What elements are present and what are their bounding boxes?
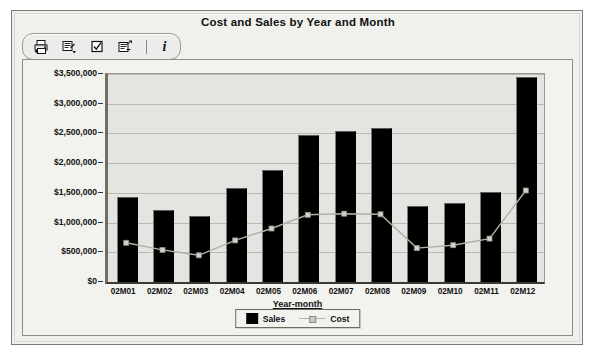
- x-axis-tick-label: 02M08: [365, 287, 390, 296]
- cost-line-series: Cost 02M01: $660,000Cost 02M02: $540,000…: [108, 74, 544, 282]
- cost-marker-02M07[interactable]: Cost 02M07: $1,150,000: [342, 211, 347, 216]
- y-axis-tick-mark: [98, 73, 103, 74]
- cost-marker-02M03[interactable]: Cost 02M03: $450,000: [196, 253, 201, 258]
- cost-marker-02M06[interactable]: Cost 02M06: $1,130,000: [305, 212, 310, 217]
- y-axis-tick-mark: [98, 251, 103, 252]
- print-icon[interactable]: [32, 37, 51, 56]
- cost-marker-02M09[interactable]: Cost 02M09: $570,000: [414, 246, 419, 251]
- y-axis-tick-mark: [98, 281, 103, 282]
- x-axis-tick-label: 02M06: [292, 287, 317, 296]
- page-title: Cost and Sales by Year and Month: [12, 16, 584, 28]
- y-axis-tick-mark: [98, 162, 103, 163]
- x-axis-tick-label: 02M09: [401, 287, 426, 296]
- checkbox-icon[interactable]: [88, 37, 107, 56]
- y-axis-tick-label: $2,000,000: [54, 157, 97, 167]
- y-axis-tick-label: $2,500,000: [54, 127, 97, 137]
- properties-icon[interactable]: [116, 37, 135, 56]
- cost-marker-02M08[interactable]: Cost 02M08: $1,140,000: [378, 212, 383, 217]
- chart-legend: Sales Cost: [235, 309, 361, 328]
- y-axis-tick-mark: [98, 132, 103, 133]
- cost-marker-02M11[interactable]: Cost 02M11: $730,000: [487, 236, 492, 241]
- y-axis-tick-mark: [98, 103, 103, 104]
- x-axis-tick-label: 02M02: [147, 287, 172, 296]
- x-axis-tick-label: 02M01: [111, 287, 136, 296]
- cost-marker-02M10[interactable]: Cost 02M10: $620,000: [451, 243, 456, 248]
- cost-marker-02M04[interactable]: Cost 02M04: $700,000: [233, 238, 238, 243]
- cost-line-path: [126, 191, 526, 256]
- cost-marker-02M02[interactable]: Cost 02M02: $540,000: [160, 247, 165, 252]
- x-axis-tick-label: 02M10: [438, 287, 463, 296]
- export-icon[interactable]: [60, 37, 79, 56]
- report-toolbar: i: [22, 33, 181, 60]
- toolbar-separator: [146, 40, 147, 54]
- legend-item-cost[interactable]: Cost: [299, 313, 349, 324]
- legend-label-sales: Sales: [263, 314, 285, 324]
- y-axis-tick-label: $500,000: [61, 246, 97, 256]
- x-axis-tick-label: 02M07: [329, 287, 354, 296]
- x-axis-tick-label: 02M04: [220, 287, 245, 296]
- legend-label-cost: Cost: [330, 314, 349, 324]
- cost-marker-02M12[interactable]: Cost 02M12: $1,540,000: [523, 188, 528, 193]
- x-axis-title: Year-month: [23, 299, 572, 309]
- x-axis-tick-label: 02M11: [474, 287, 499, 296]
- report-viewer-window: Cost and Sales by Year and Month: [11, 10, 583, 345]
- cost-swatch-icon: [299, 313, 325, 324]
- y-axis-tick-mark: [98, 192, 103, 193]
- sales-swatch-icon: [246, 313, 258, 324]
- plot-inner: Cost 02M01: $660,000Cost 02M02: $540,000…: [108, 74, 544, 282]
- legend-item-sales[interactable]: Sales: [246, 313, 285, 324]
- y-axis-tick-label: $3,500,000: [54, 68, 97, 78]
- y-axis-tick-label: $1,500,000: [54, 187, 97, 197]
- x-axis-tick-label: 02M03: [183, 287, 208, 296]
- y-axis-tick-label: $1,000,000: [54, 217, 97, 227]
- x-axis-tick-label: 02M05: [256, 287, 281, 296]
- cost-marker-02M05[interactable]: Cost 02M05: $900,000: [269, 226, 274, 231]
- plot-area: Cost 02M01: $660,000Cost 02M02: $540,000…: [105, 73, 545, 284]
- chart-container: Cost 02M01: $660,000Cost 02M02: $540,000…: [22, 59, 573, 336]
- info-icon[interactable]: i: [158, 39, 171, 55]
- y-axis-tick-label: $0: [87, 276, 97, 286]
- cost-marker-02M01[interactable]: Cost 02M01: $660,000: [124, 240, 129, 245]
- y-axis-tick-label: $3,000,000: [54, 98, 97, 108]
- y-axis-tick-mark: [98, 222, 103, 223]
- x-axis-tick-label: 02M12: [510, 287, 535, 296]
